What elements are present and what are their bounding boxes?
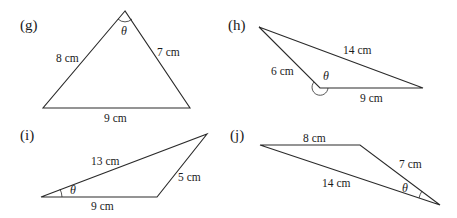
figure-g: (g) θ 8 cm 7 cm 9 cm	[20, 11, 190, 124]
figure-h-angle: θ	[323, 69, 329, 83]
figure-i: (i) θ 13 cm 5 cm 9 cm	[20, 127, 207, 212]
figure-j-side-top: 8 cm	[303, 132, 326, 144]
figure-i-angle: θ	[70, 183, 76, 197]
figure-h-side-bottom: 9 cm	[360, 92, 383, 104]
figure-g-side-right: 7 cm	[157, 46, 180, 58]
figure-i-side-bottom: 9 cm	[91, 200, 114, 212]
figure-h-tag: (h)	[228, 17, 246, 34]
figure-j-side-right: 7 cm	[399, 158, 422, 170]
figure-i-side-top: 13 cm	[91, 155, 119, 167]
figure-g-side-left: 8 cm	[56, 52, 79, 64]
figure-g-tag: (g)	[20, 17, 38, 34]
figure-g-angle: θ	[121, 24, 127, 38]
triangle-h	[259, 27, 423, 88]
figure-h-side-left: 6 cm	[271, 65, 294, 77]
figure-j-side-bottom: 14 cm	[322, 177, 350, 189]
angle-arc-g	[118, 19, 132, 22]
triangle-j	[260, 145, 440, 205]
angle-arc-h	[312, 82, 328, 95]
triangle-diagrams: (g) θ 8 cm 7 cm 9 cm (h) θ 14 cm 6 cm 9 …	[0, 0, 457, 218]
figure-j-angle: θ	[402, 181, 408, 195]
figure-j: (j) θ 8 cm 7 cm 14 cm	[230, 127, 440, 205]
figure-i-tag: (i)	[20, 127, 34, 144]
figure-g-side-bottom: 9 cm	[104, 112, 127, 124]
triangle-i	[41, 134, 207, 197]
figure-h: (h) θ 14 cm 6 cm 9 cm	[228, 17, 423, 104]
angle-arc-j	[419, 191, 422, 198]
figure-i-side-right: 5 cm	[178, 171, 201, 183]
angle-arc-i	[60, 189, 62, 197]
figure-j-tag: (j)	[230, 127, 244, 144]
figure-h-side-top: 14 cm	[343, 44, 371, 56]
